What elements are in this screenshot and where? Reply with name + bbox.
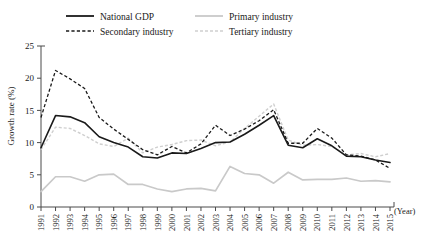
x-tick-label-2000: 2000	[167, 214, 177, 231]
x-tick-label-2013: 2013	[356, 214, 366, 231]
growth-rate-line-chart: National GDP Primary industry Secondary …	[0, 0, 436, 241]
x-tick-label-2004: 2004	[225, 213, 235, 231]
x-tick-label-1998: 1998	[138, 214, 148, 231]
y-tick-label-20: 20	[25, 73, 35, 83]
x-tick-label-1993: 1993	[65, 214, 75, 231]
y-tick-label-10: 10	[25, 138, 35, 148]
x-tick-label-2014: 2014	[371, 213, 381, 231]
y-axis-title: Growth rate (%)	[6, 87, 16, 146]
x-tick-label-1997: 1997	[123, 214, 133, 231]
x-tick-label-2006: 2006	[254, 214, 264, 231]
legend-label-secondary-industry: Secondary industry	[100, 27, 174, 37]
x-axis: 1991199219931994199519961997199819992000…	[36, 207, 395, 231]
x-tick-label-2015: 2015	[385, 214, 395, 231]
legend-label-national-gdp: National GDP	[100, 12, 154, 22]
x-tick-label-1992: 1992	[51, 214, 61, 231]
x-tick-label-2005: 2005	[240, 214, 250, 231]
y-tick-label-5: 5	[30, 170, 35, 180]
chart-legend: National GDP Primary industry Secondary …	[66, 12, 293, 37]
series-line-national-gdp	[41, 116, 390, 163]
x-axis-title: (Year)	[394, 206, 415, 216]
x-tick-label-2010: 2010	[312, 214, 322, 231]
x-tick-label-2008: 2008	[283, 214, 293, 231]
chart-series-group	[41, 70, 390, 191]
y-tick-label-25: 25	[25, 41, 35, 51]
x-tick-label-1991: 1991	[36, 214, 46, 231]
x-tick-label-1994: 1994	[80, 213, 90, 231]
y-axis: 0510152025	[25, 41, 41, 212]
y-tick-label-0: 0	[30, 202, 35, 212]
x-tick-label-2007: 2007	[269, 214, 279, 231]
series-line-secondary-industry	[41, 70, 390, 168]
x-tick-label-2001: 2001	[182, 214, 192, 231]
x-tick-label-2012: 2012	[342, 214, 352, 231]
x-tick-label-2011: 2011	[327, 214, 337, 231]
x-tick-label-2003: 2003	[211, 214, 221, 231]
series-line-primary-industry	[41, 166, 390, 191]
x-tick-label-1996: 1996	[109, 214, 119, 231]
legend-label-tertiary-industry: Tertiary industry	[229, 27, 293, 37]
x-tick-label-2009: 2009	[298, 214, 308, 231]
x-tick-label-1999: 1999	[153, 214, 163, 231]
y-tick-label-15: 15	[25, 106, 35, 116]
legend-label-primary-industry: Primary industry	[229, 12, 293, 22]
x-tick-label-2002: 2002	[196, 214, 206, 231]
x-tick-label-1995: 1995	[94, 214, 104, 231]
